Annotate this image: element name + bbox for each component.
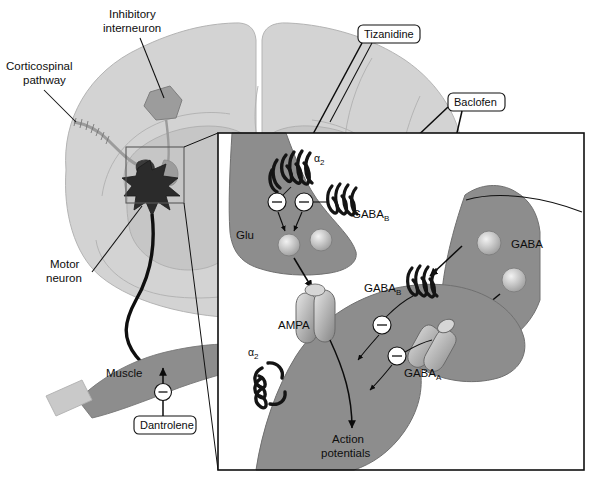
figure-root: Inhibitory interneuron Corticospinal pat… (0, 0, 592, 479)
dantrolene-label: Dantrolene (140, 419, 194, 431)
glu-vesicle-1 (278, 234, 300, 256)
label-corticospinal-pathway: Corticospinal pathway (6, 60, 76, 122)
neuropharmacology-diagram: Inhibitory interneuron Corticospinal pat… (0, 0, 592, 479)
gaba-vesicle-2 (502, 268, 526, 292)
tizanidine-label: Tizanidine (364, 28, 414, 40)
muscle-label: Muscle (106, 367, 142, 379)
inhibitory-interneuron-label-line2: interneuron (103, 22, 161, 34)
corticospinal-pathway-leader (44, 90, 76, 122)
corticospinal-pathway-label-line2: pathway (23, 74, 66, 86)
glu-label: Glu (236, 229, 254, 241)
glu-vesicle-2 (310, 229, 332, 251)
corticospinal-pathway-label-line1: Corticospinal (6, 60, 72, 72)
ampa-label: AMPA (278, 319, 310, 331)
gaba-label: GABA (511, 238, 543, 250)
baclofen-label: Baclofen (454, 96, 497, 108)
gaba-vesicle-1 (477, 231, 501, 255)
action-potentials-label-line1: Action (332, 433, 364, 445)
synapse-inset-panel: Glu α2 GABAB (218, 133, 584, 470)
motor-neuron-label-line1: Motor (50, 258, 80, 270)
muscle-tendon (46, 380, 92, 416)
motor-neuron-label-line2: neuron (46, 272, 82, 284)
action-potentials-label-line2: potentials (321, 447, 370, 459)
inhibitory-interneuron-label-line1: Inhibitory (109, 8, 156, 20)
